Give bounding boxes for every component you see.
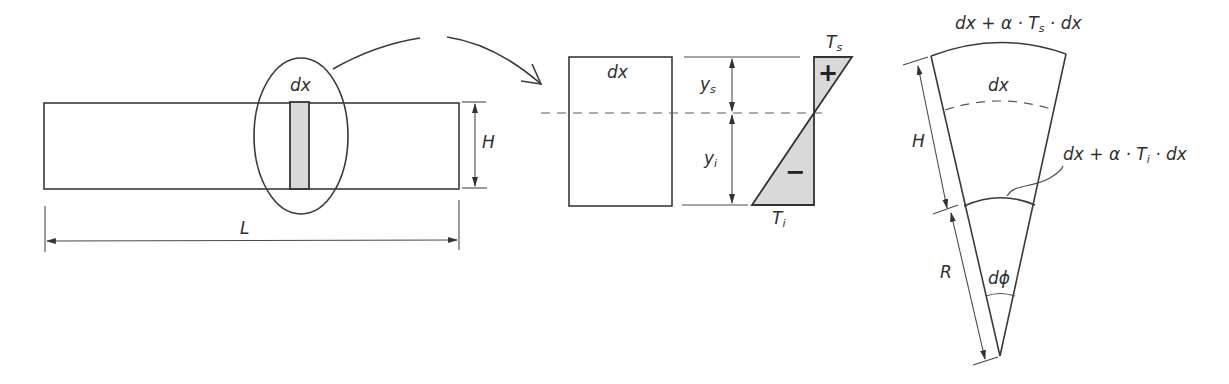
- thermal-bending-diagram: [0, 0, 1229, 384]
- bottom-arc-pre: dx + α · T: [1063, 144, 1147, 164]
- mid-arc-dashed: [945, 101, 1054, 110]
- sector-h-label: H: [912, 133, 925, 150]
- ti-sub: i: [782, 217, 785, 230]
- section-dx-label: dx: [607, 64, 628, 81]
- ts-sub: s: [836, 41, 842, 54]
- yi-main: y: [704, 148, 714, 168]
- yi-sub: i: [714, 157, 717, 170]
- beam-body: [44, 103, 459, 189]
- ys-main: y: [700, 74, 710, 94]
- deformed-panel: [903, 42, 1066, 365]
- yi-label: yi: [704, 150, 717, 169]
- r-label: R: [940, 264, 952, 281]
- ts-label: Ts: [826, 34, 842, 53]
- angle-arc: [986, 294, 1015, 297]
- top-arc-post: · dx: [1044, 13, 1081, 33]
- ys-sub: s: [710, 83, 716, 96]
- top-arc-label: dx + α · Ts · dx: [955, 15, 1082, 34]
- minus-sign: −: [785, 160, 805, 184]
- bottom-arc-post: · dx: [1150, 144, 1187, 164]
- ti-label: Ti: [772, 210, 785, 229]
- h-ext-top: [903, 57, 928, 65]
- h-ext-mid: [933, 205, 958, 214]
- bottom-arc-label: dx + α · Ti · dx: [1063, 146, 1187, 165]
- ti-main: T: [772, 208, 782, 228]
- section-panel: [541, 57, 852, 206]
- bottom-arc-leader: [1007, 166, 1063, 196]
- plus-sign: +: [818, 61, 838, 85]
- beam-l-label: L: [240, 220, 249, 237]
- ys-label: ys: [700, 76, 716, 95]
- r-ext-bottom: [973, 357, 998, 365]
- l-dimension-line: [47, 240, 457, 241]
- beam-element-strip: [290, 102, 309, 189]
- beam-h-label: H: [482, 134, 495, 151]
- detail-arrow: [333, 37, 541, 84]
- mid-arc-label: dx: [988, 77, 1009, 94]
- dphi-label: dϕ: [988, 270, 1010, 287]
- bottom-arc: [964, 198, 1035, 206]
- top-arc: [931, 42, 1066, 56]
- top-arc-pre: dx + α · T: [955, 13, 1039, 33]
- beam-dx-label: dx: [290, 77, 311, 94]
- beam-panel: [44, 58, 487, 252]
- r-dimension-line: [951, 213, 985, 359]
- ts-main: T: [826, 32, 836, 52]
